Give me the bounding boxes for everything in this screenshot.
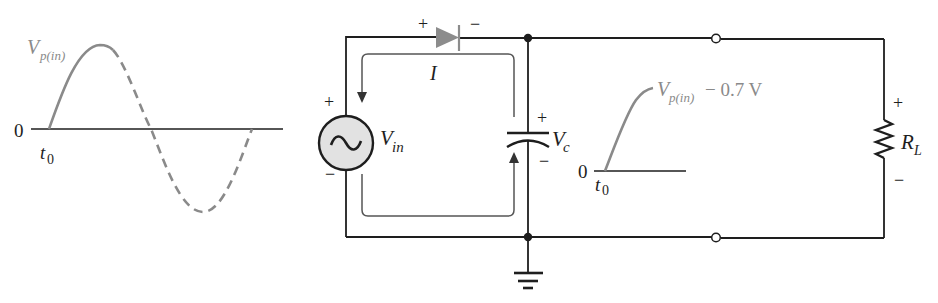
load-subscript: L	[913, 143, 922, 158]
capacitor-minus: −	[539, 151, 549, 171]
current-arrow-up-icon	[509, 152, 519, 163]
ac-source: + − V in	[319, 92, 404, 184]
source-minus: −	[325, 164, 335, 184]
output-waveform: 0 t 0 V p(in) − 0.7 V	[578, 78, 763, 198]
input-t-label: t	[40, 142, 46, 163]
input-dashed-wave	[113, 50, 252, 212]
output-zero-label: 0	[578, 161, 588, 182]
circuit-wires	[346, 36, 884, 273]
input-t-subscript: 0	[47, 152, 54, 167]
output-peak-suffix: − 0.7 V	[705, 79, 763, 100]
ground-icon	[514, 273, 543, 288]
diode: + −	[418, 14, 480, 51]
load-minus: −	[894, 170, 904, 190]
input-zero-label: 0	[14, 120, 24, 141]
diode-plus: +	[418, 14, 428, 34]
resistor-zigzag-icon	[876, 120, 892, 158]
output-peak-subscript: p(in)	[668, 90, 694, 105]
current-label: I	[429, 62, 438, 84]
rectifier-diagram: 0 t 0 V p(in) + −	[0, 0, 938, 303]
junction-top	[524, 34, 532, 42]
output-t-label: t	[595, 174, 601, 195]
junction-bottom	[524, 233, 532, 241]
output-terminal-top	[712, 34, 721, 43]
load-resistor: + − R L	[876, 93, 922, 190]
load-plus: +	[893, 93, 903, 113]
load-label: R	[900, 130, 914, 154]
input-peak-subscript: p(in)	[39, 48, 65, 63]
capacitor-plus: +	[537, 108, 547, 128]
output-t-subscript: 0	[602, 183, 609, 198]
source-subscript: in	[392, 139, 404, 155]
current-arrow-down-icon	[357, 92, 367, 103]
output-terminal-bottom	[712, 233, 721, 242]
source-plus: +	[324, 92, 334, 112]
input-waveform: 0 t 0 V p(in)	[14, 36, 283, 212]
diode-minus: −	[470, 14, 480, 34]
diode-triangle-icon	[436, 27, 459, 48]
capacitor-subscript: c	[563, 139, 570, 155]
output-charging-curve	[605, 88, 653, 171]
current-path-bottom	[362, 160, 514, 216]
current-path-top	[362, 54, 514, 117]
